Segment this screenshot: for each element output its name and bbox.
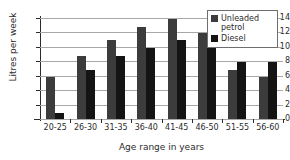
x-axis-title: Age range in years (40, 142, 283, 152)
bar-unleaded-petrol (46, 77, 55, 119)
legend-label-unleaded-petrol: Unleaded petrol (221, 14, 273, 32)
legend-item-unleaded-petrol: Unleaded petrol (211, 14, 273, 32)
legend-label-diesel: Diesel (221, 34, 246, 43)
y-axis-title: Litres per week (8, 2, 18, 92)
x-tick-label: 51-55 (220, 124, 254, 132)
x-tick-mark (192, 119, 193, 123)
legend-swatch-icon-diesel (211, 35, 218, 42)
x-tick-label: 31-35 (99, 124, 133, 132)
bar-diesel (86, 70, 95, 119)
bar-unleaded-petrol (168, 19, 177, 119)
bar-unleaded-petrol (228, 70, 237, 119)
x-tick-mark (101, 119, 102, 123)
bar-diesel (146, 48, 155, 119)
bar-diesel (177, 40, 186, 119)
bar-chart: 02468101214 20-2526-3031-3536-4041-4546-… (0, 0, 290, 160)
bar-unleaded-petrol (107, 40, 116, 119)
x-tick-label: 41-45 (160, 124, 194, 132)
x-tick-label: 26-30 (69, 124, 103, 132)
x-tick-mark (283, 119, 284, 123)
bar-diesel (55, 113, 64, 119)
legend-swatch-icon-unleaded-petrol (211, 15, 218, 22)
bar-unleaded-petrol (198, 33, 207, 119)
bar-unleaded-petrol (259, 77, 268, 119)
bar-diesel (237, 62, 246, 119)
bar-diesel (268, 62, 277, 119)
x-tick-mark (222, 119, 223, 123)
x-tick-label: 20-25 (38, 124, 72, 132)
legend-item-diesel: Diesel (211, 34, 273, 43)
x-tick-label: 36-40 (129, 124, 163, 132)
x-tick-mark (70, 119, 71, 123)
bar-group (101, 18, 131, 119)
bar-group (162, 18, 192, 119)
bar-group (40, 18, 70, 119)
bar-diesel (116, 56, 125, 119)
bar-diesel (207, 48, 216, 119)
x-tick-mark (162, 119, 163, 123)
chart-legend: Unleaded petrol Diesel (207, 10, 278, 48)
bar-group (131, 18, 161, 119)
bar-unleaded-petrol (137, 27, 146, 119)
bar-group (70, 18, 100, 119)
x-tick-label: 56-60 (251, 124, 285, 132)
x-tick-label: 46-50 (190, 124, 224, 132)
x-tick-mark (253, 119, 254, 123)
bar-unleaded-petrol (77, 56, 86, 119)
x-tick-mark (131, 119, 132, 123)
